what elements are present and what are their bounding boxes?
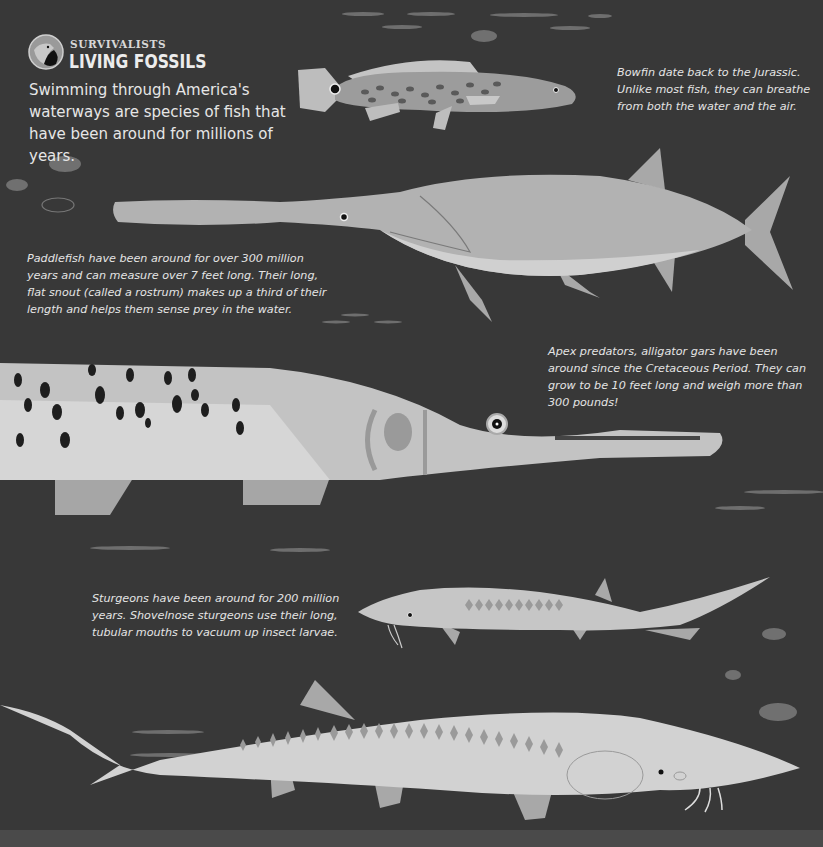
shovelnose-sturgeon-illustration — [358, 577, 770, 648]
condor-head-icon — [28, 34, 64, 70]
caption-alligator-gar: Apex predators, alligator gars have been… — [548, 343, 808, 411]
sturgeon-illustration — [0, 680, 800, 820]
page: SURVIVALISTS LIVING FOSSILS Swimming thr… — [0, 0, 823, 847]
caption-bowfin: Bowfin date back to the Jurassic. Unlike… — [617, 64, 817, 115]
section-kicker: SURVIVALISTS — [70, 38, 166, 50]
caption-sturgeon: Sturgeons have been around for 200 milli… — [92, 590, 352, 641]
bottom-band — [0, 830, 823, 847]
page-title: LIVING FOSSILS — [69, 50, 206, 72]
bowfin-illustration — [298, 60, 576, 130]
caption-paddlefish: Paddlefish have been around for over 300… — [27, 250, 327, 318]
intro-text: Swimming through America's waterways are… — [29, 79, 289, 167]
